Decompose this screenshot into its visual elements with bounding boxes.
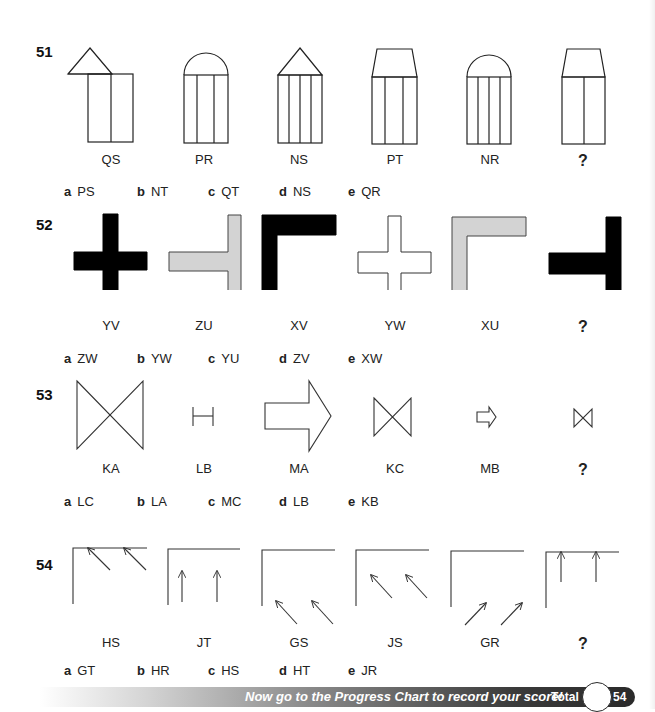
figure-ns bbox=[278, 48, 322, 143]
option-b[interactable]: bHR bbox=[137, 663, 170, 678]
option-c[interactable]: cHS bbox=[208, 663, 239, 678]
figure-label: ZU bbox=[164, 318, 244, 333]
figure-question bbox=[546, 552, 619, 608]
option-a[interactable]: aLC bbox=[64, 494, 94, 509]
figure-pt bbox=[372, 49, 417, 144]
figure-label: MA bbox=[259, 461, 339, 476]
figure-label: HS bbox=[71, 635, 151, 650]
figure-label: NS bbox=[259, 152, 339, 167]
total-score-circle[interactable] bbox=[582, 682, 612, 712]
unknown-figure-label: ? bbox=[543, 461, 623, 479]
figure-label: XU bbox=[450, 318, 530, 333]
figure-label: YV bbox=[71, 318, 151, 333]
option-d[interactable]: dHT bbox=[279, 663, 310, 678]
unknown-figure-label: ? bbox=[543, 635, 623, 653]
figure-kc bbox=[374, 398, 411, 436]
progress-footer-bar: Now go to the Progress Chart to record y… bbox=[40, 687, 635, 707]
question-51-figures bbox=[0, 0, 655, 150]
figure-hs bbox=[73, 548, 147, 604]
progress-chart-message: Now go to the Progress Chart to record y… bbox=[245, 689, 563, 704]
option-d[interactable]: dLB bbox=[279, 494, 309, 509]
figure-pr bbox=[184, 53, 228, 143]
page-edge bbox=[649, 0, 655, 709]
figure-jt bbox=[168, 549, 240, 605]
figure-label: LB bbox=[164, 461, 244, 476]
figure-label: JS bbox=[355, 635, 435, 650]
figure-question bbox=[549, 217, 621, 290]
total-max-score: 54 bbox=[613, 690, 626, 704]
figure-question bbox=[574, 409, 592, 427]
figure-lb bbox=[193, 407, 213, 426]
figure-label: GR bbox=[450, 635, 530, 650]
unknown-figure-label: ? bbox=[543, 152, 623, 170]
figure-gr bbox=[451, 551, 524, 625]
option-b[interactable]: bLA bbox=[137, 494, 167, 509]
figure-xv bbox=[262, 215, 336, 290]
figure-label: QS bbox=[71, 152, 151, 167]
option-c[interactable]: cMC bbox=[208, 494, 241, 509]
unknown-figure-label: ? bbox=[543, 318, 623, 336]
figure-mb bbox=[477, 407, 496, 427]
figure-question bbox=[562, 49, 605, 144]
question-52-figures bbox=[0, 180, 655, 290]
figure-zu bbox=[169, 215, 241, 290]
question-54-figures bbox=[0, 520, 655, 630]
option-e[interactable]: eJR bbox=[348, 663, 377, 678]
question-53-figures bbox=[0, 350, 655, 460]
figure-label: MB bbox=[450, 461, 530, 476]
figure-qs bbox=[68, 48, 134, 142]
figure-label: NR bbox=[450, 152, 530, 167]
option-e[interactable]: eKB bbox=[348, 494, 379, 509]
figure-label: GS bbox=[259, 635, 339, 650]
figure-label: YW bbox=[355, 318, 435, 333]
figure-js bbox=[356, 550, 429, 606]
figure-ka bbox=[77, 381, 143, 449]
figure-yw bbox=[358, 216, 431, 290]
figure-label: PR bbox=[164, 152, 244, 167]
figure-ma bbox=[265, 381, 331, 451]
figure-label: XV bbox=[259, 318, 339, 333]
figure-nr bbox=[467, 55, 511, 144]
figure-label: KA bbox=[71, 461, 151, 476]
total-label: Total bbox=[551, 690, 579, 704]
figure-label: JT bbox=[164, 635, 244, 650]
figure-label: KC bbox=[355, 461, 435, 476]
figure-xu bbox=[452, 217, 526, 290]
option-a[interactable]: aGT bbox=[64, 663, 95, 678]
figure-yv bbox=[74, 214, 147, 290]
figure-gs bbox=[262, 550, 335, 624]
figure-label: PT bbox=[355, 152, 435, 167]
